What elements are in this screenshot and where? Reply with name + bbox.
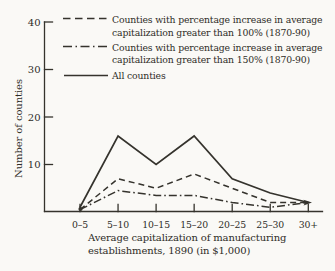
left-convergence-mark	[78, 207, 82, 211]
x-tick-label: 10–15	[142, 219, 170, 230]
x-tick-label: 5–10	[107, 219, 129, 230]
x-axis-title-line1: Average capitalization of manufacturing	[87, 232, 287, 243]
legend-item-all-counties: All counties	[64, 70, 166, 81]
chart-canvas: Counties with percentage increase in ave…	[0, 0, 335, 271]
x-tick-label: 20–25	[218, 219, 246, 230]
x-axis-title-line2: establishments, 1890 (in $1,000)	[88, 245, 250, 256]
y-axis: 10203040 Number of counties	[13, 17, 53, 212]
y-tick-label: 40	[28, 17, 41, 28]
x-tick-label: 0–5	[72, 219, 88, 230]
x-axis: 0–55–1010–1515–2020–2525–3030+ Average c…	[45, 205, 323, 256]
y-ticks: 10203040	[28, 17, 53, 171]
legend-item-gt100: Counties with percentage increase in ave…	[63, 14, 323, 38]
x-tick-label: 30+	[299, 219, 318, 230]
y-axis-title: Number of counties	[13, 79, 24, 178]
y-tick-label: 30	[28, 64, 41, 75]
y-tick-label: 20	[28, 112, 41, 123]
x-ticks: 0–55–1010–1515–2020–2525–3030+	[72, 205, 318, 230]
legend-label: capitalization greater than 100% (1870-9…	[112, 27, 310, 38]
x-tick-label: 25–30	[256, 219, 284, 230]
legend-label: All counties	[111, 70, 166, 81]
legend-label: Counties with percentage increase in ave…	[112, 14, 323, 25]
x-tick-label: 15–20	[180, 219, 208, 230]
plot-series	[78, 136, 312, 211]
series-line-solid	[80, 136, 308, 207]
legend: Counties with percentage increase in ave…	[63, 14, 323, 81]
legend-label: capitalization greater than 150% (1870-9…	[112, 54, 310, 65]
legend-item-gt150: Counties with percentage increase in ave…	[63, 42, 323, 66]
scanned-line-chart-figure: Counties with percentage increase in ave…	[0, 0, 335, 271]
legend-label: Counties with percentage increase in ave…	[112, 42, 323, 53]
y-tick-label: 10	[28, 159, 41, 170]
